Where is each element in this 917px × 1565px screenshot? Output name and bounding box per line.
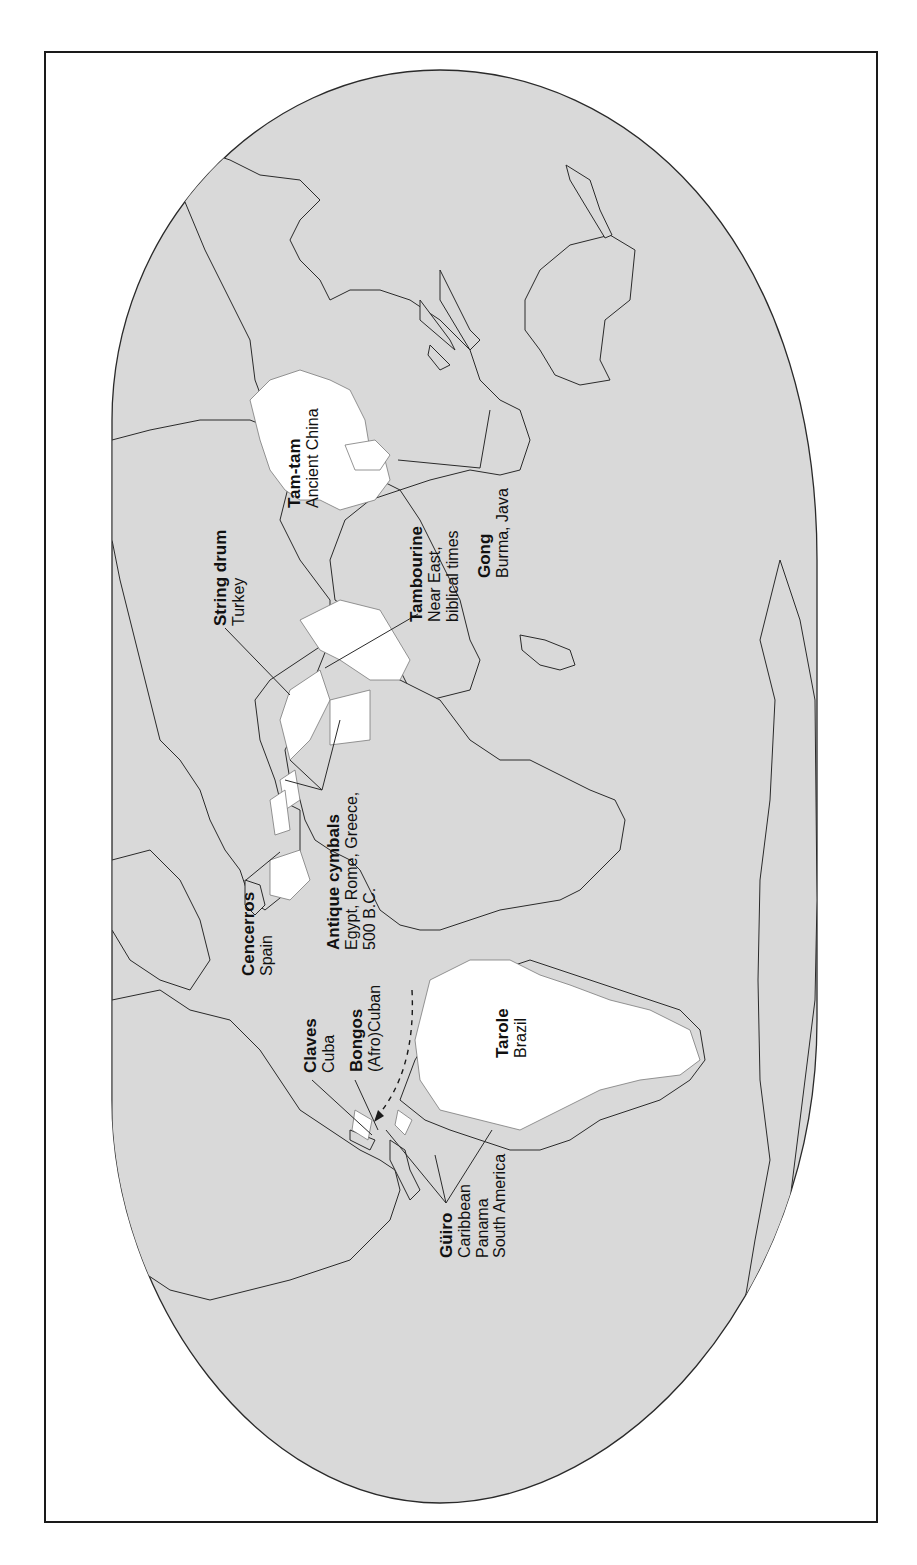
label-bongos: Bongos (Afro)Cuban <box>348 985 384 1072</box>
world-map <box>0 0 917 1565</box>
instrument-name: Bongos <box>348 985 366 1072</box>
label-claves: Claves Cuba <box>302 1018 338 1073</box>
instrument-name: Güiro <box>438 1154 456 1258</box>
instrument-origin: Egypt, Rome, Greece, <box>343 792 360 950</box>
label-tambourine: Tambourine Near East, biblical times <box>408 526 461 622</box>
instrument-origin: Caribbean <box>456 1154 473 1258</box>
instrument-name: String drum <box>212 530 230 626</box>
instrument-name: Tambourine <box>408 526 426 622</box>
instrument-name: Tam-tam <box>286 408 304 508</box>
label-guiro: Güiro Caribbean Panama South America <box>438 1154 508 1258</box>
instrument-name: Claves <box>302 1018 320 1073</box>
instrument-origin: South America <box>491 1154 508 1258</box>
instrument-origin: Brazil <box>512 1008 529 1058</box>
label-gong: Gong Burma, Java <box>476 488 512 578</box>
instrument-origin: 500 B.C. <box>361 792 378 950</box>
instrument-name: Tarole <box>494 1008 512 1058</box>
label-tam-tam: Tam-tam Ancient China <box>286 408 322 508</box>
instrument-origin: Cuba <box>320 1018 337 1073</box>
instrument-name: Gong <box>476 488 494 578</box>
instrument-origin: Burma, Java <box>494 488 511 578</box>
instrument-name: Antique cymbals <box>325 792 343 950</box>
instrument-origin: biblical times <box>444 526 461 622</box>
instrument-origin: Turkey <box>230 530 247 626</box>
instrument-origin: Near East, <box>426 526 443 622</box>
instrument-name: Cencerros <box>240 892 258 976</box>
instrument-origin: Spain <box>258 892 275 976</box>
instrument-origin: Ancient China <box>304 408 321 508</box>
instrument-origin: Panama <box>474 1154 491 1258</box>
instrument-origin: (Afro)Cuban <box>366 985 383 1072</box>
label-tarole: Tarole Brazil <box>494 1008 530 1058</box>
label-string-drum: String drum Turkey <box>212 530 248 626</box>
label-antique-cymbals: Antique cymbals Egypt, Rome, Greece, 500… <box>325 792 378 950</box>
label-cencerros: Cencerros Spain <box>240 892 276 976</box>
